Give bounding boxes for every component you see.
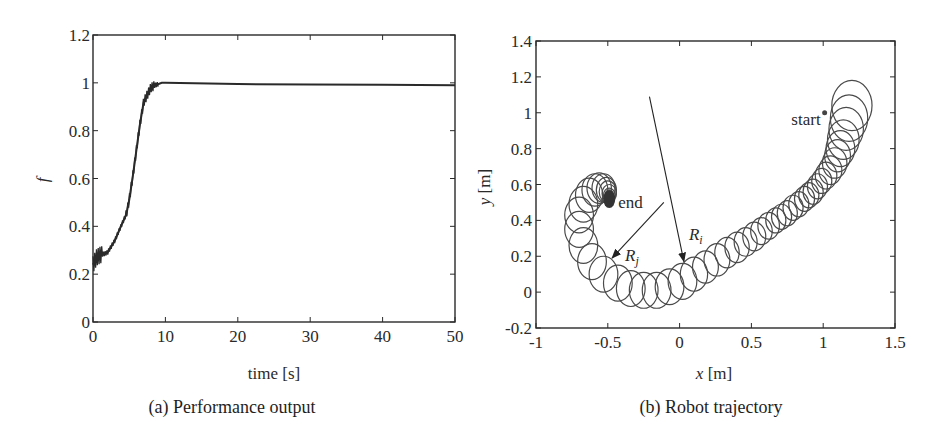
robot-circle — [578, 244, 607, 280]
ri-label: Ri — [688, 225, 703, 247]
y-tick-label: 0.2 — [511, 247, 532, 266]
x-tick-label: 1.5 — [884, 333, 905, 352]
y-tick-label: 0 — [82, 313, 91, 332]
robot-circle — [815, 162, 837, 189]
robot-circle — [819, 156, 842, 185]
end-marker — [603, 190, 615, 208]
x-tick-label: 0 — [675, 333, 684, 352]
y-unit: [m] — [475, 169, 494, 198]
y-tick-label: 1.2 — [69, 26, 90, 45]
x-tick-label: 0 — [89, 327, 98, 346]
robot-circle — [812, 168, 832, 193]
x-tick-label: 30 — [302, 327, 319, 346]
robot-circle — [807, 174, 827, 199]
y-tick-label: 0 — [524, 283, 533, 302]
panel-b-plot-area — [565, 80, 872, 308]
y-tick-label: 1.2 — [511, 68, 532, 87]
x-tick-label: 1 — [819, 333, 828, 352]
y-tick-label: 0.6 — [69, 170, 90, 189]
y-tick-label: 0.8 — [511, 140, 532, 159]
panel-a-caption: (a) Performance output — [149, 397, 316, 418]
y-tick-label: 0.8 — [69, 122, 90, 141]
panel-b-y-axis-label: y [m] — [475, 169, 494, 207]
rj-label: Rj — [624, 246, 639, 268]
robot-circle — [725, 232, 749, 262]
x-tick-label: -0.5 — [594, 333, 621, 352]
panel-a-ticks: 0102030405000.20.40.60.811.2 — [69, 26, 464, 346]
robot-circle — [575, 178, 602, 212]
start-label: start — [791, 110, 821, 129]
y-tick-label: 1 — [82, 74, 91, 93]
y-tick-label: 1 — [524, 104, 533, 123]
panel-a-x-axis-label: time [s] — [248, 364, 300, 383]
figure: 0102030405000.20.40.60.811.2 time [s] f … — [0, 0, 939, 440]
panel-b-annotations: startendRiRj — [612, 97, 821, 268]
y-tick-label: 0.6 — [511, 176, 532, 195]
robot-circle — [629, 272, 658, 308]
y-symbol: y — [475, 197, 494, 207]
panel-a-axes-frame — [93, 35, 455, 322]
x-tick-label: 0.5 — [741, 333, 762, 352]
panel-b-ticks: -1-0.500.511.5-0.200.20.40.60.811.21.4 — [505, 32, 906, 352]
panel-b-x-axis-label: x [m] — [695, 364, 732, 383]
y-tick-label: 0.4 — [511, 211, 533, 230]
end-label: end — [618, 193, 643, 212]
panel-a-y-axis-label: f — [33, 175, 52, 182]
start-marker — [822, 110, 827, 115]
robot-circle — [569, 186, 598, 222]
panel-b-caption: (b) Robot trajectory — [640, 397, 783, 418]
y-tick-label: 0.2 — [69, 265, 90, 284]
f-curve — [93, 83, 455, 265]
panel-a-plot-area — [93, 81, 455, 271]
x-tick-label: 20 — [229, 327, 246, 346]
x-tick-label: 50 — [447, 327, 464, 346]
panel-b-robot-trajectory: -1-0.500.511.5-0.200.20.40.60.811.21.4 s… — [475, 32, 906, 418]
y-tick-label: 0.4 — [69, 217, 91, 236]
x-unit: [m] — [703, 364, 732, 383]
ri-arrow — [649, 97, 683, 262]
x-tick-label: 40 — [374, 327, 391, 346]
y-tick-label: -0.2 — [505, 319, 532, 338]
f-curve-oscillation — [93, 81, 158, 271]
x-tick-label: 10 — [157, 327, 174, 346]
y-tick-label: 1.4 — [511, 32, 533, 51]
panel-a-performance-output: 0102030405000.20.40.60.811.2 time [s] f … — [33, 26, 464, 418]
